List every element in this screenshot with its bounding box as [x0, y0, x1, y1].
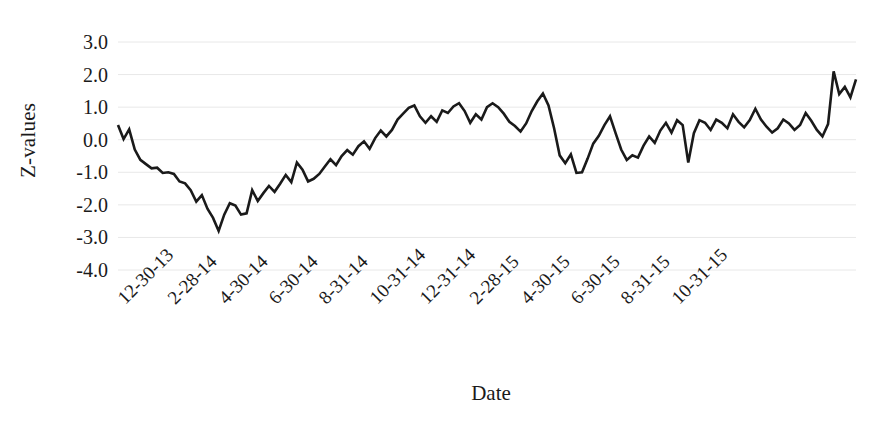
chart-container: Z-values 3.02.01.00.0-1.0-2.0-3.0-4.0 12…	[0, 0, 878, 427]
gridlines	[118, 42, 856, 270]
x-axis-title: Date	[0, 381, 878, 406]
data-series-line	[118, 71, 856, 231]
plot-area	[0, 0, 878, 427]
x-axis-title-text: Date	[471, 381, 511, 406]
